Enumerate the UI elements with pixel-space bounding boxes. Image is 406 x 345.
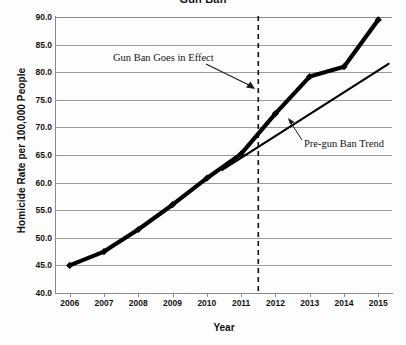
annotation-arrow-gun-ban	[206, 64, 253, 87]
chart-canvas: Gun Ban Homicide Rate per 100,000 People…	[0, 0, 406, 345]
annotation-gun-ban-goes-in-effect: Gun Ban Goes in Effect	[113, 52, 214, 63]
annotation-arrowhead-gun-ban	[246, 82, 255, 90]
annotation-pre-gun-ban-trend: Pre-gun Ban Trend	[304, 138, 384, 149]
